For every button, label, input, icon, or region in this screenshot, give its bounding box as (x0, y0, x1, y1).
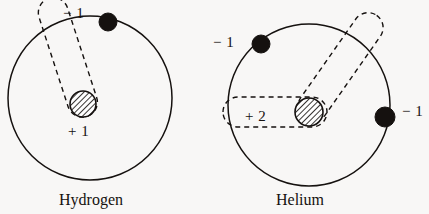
hydrogen-electron-charge-label: − 1 (63, 6, 84, 21)
hydrogen-electron (99, 13, 117, 31)
hydrogen-nucleus (70, 91, 96, 117)
helium-atom (223, 7, 395, 186)
helium-nucleus (295, 98, 323, 126)
helium-nucleus-charge-label: + 2 (245, 109, 266, 124)
helium-caption: Helium (276, 192, 324, 208)
helium-electron-1-charge-label: − 1 (213, 35, 234, 50)
helium-electron-2 (375, 107, 395, 127)
helium-electron-2-charge-label: − 1 (402, 104, 423, 119)
hydrogen-atom (8, 0, 172, 180)
diagram-canvas (0, 0, 429, 214)
hydrogen-caption: Hydrogen (59, 192, 123, 208)
hydrogen-nucleus-charge-label: + 1 (68, 124, 89, 139)
atom-diagram-figure: − 1 + 1 Hydrogen − 1 − 1 + 2 Helium (0, 0, 429, 214)
helium-electron-1 (252, 35, 270, 53)
